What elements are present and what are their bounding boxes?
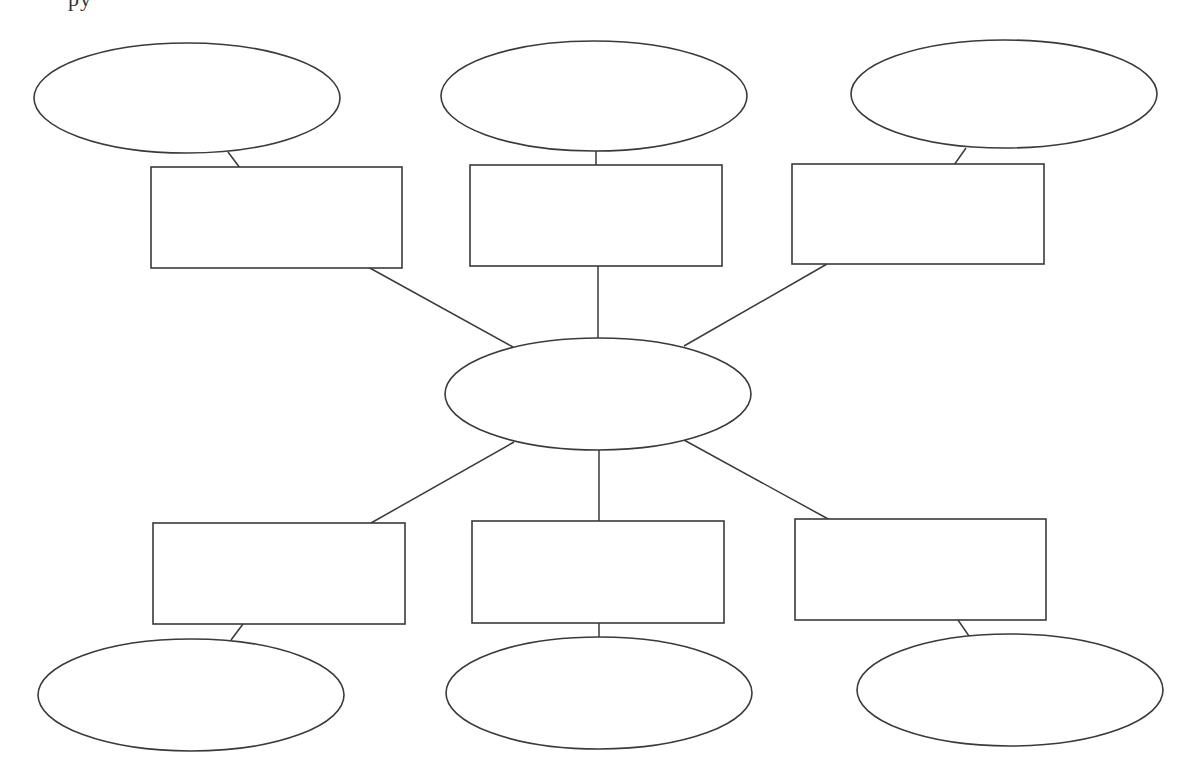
ellipse-top-right[interactable] bbox=[851, 40, 1157, 148]
ellipse-bottom-middle[interactable] bbox=[446, 637, 752, 749]
box-bottom-middle[interactable] bbox=[472, 521, 724, 623]
ellipse-top-left[interactable] bbox=[34, 43, 340, 153]
box-top-left[interactable] bbox=[151, 167, 402, 268]
shapes-layer bbox=[34, 40, 1163, 751]
hub-connector-bottom-right bbox=[684, 440, 830, 520]
center-ellipse[interactable] bbox=[445, 338, 751, 450]
leaf-connector-bottom-right bbox=[958, 620, 969, 636]
hub-connector-top-right bbox=[684, 264, 827, 346]
box-bottom-left[interactable] bbox=[153, 523, 405, 624]
hub-connector-top-left bbox=[368, 267, 513, 347]
leaf-connector-top-left bbox=[228, 152, 240, 168]
hub-connector-bottom-left bbox=[371, 442, 514, 523]
box-top-right[interactable] bbox=[792, 164, 1044, 264]
leaf-connector-top-right bbox=[954, 148, 966, 165]
graphic-organizer-diagram bbox=[0, 0, 1195, 781]
ellipse-bottom-right[interactable] bbox=[857, 634, 1163, 746]
ellipse-top-middle[interactable] bbox=[441, 41, 747, 151]
box-bottom-right[interactable] bbox=[795, 519, 1046, 620]
box-top-middle[interactable] bbox=[470, 165, 722, 266]
ellipse-bottom-left[interactable] bbox=[38, 639, 344, 751]
leaf-connector-bottom-left bbox=[231, 624, 243, 640]
